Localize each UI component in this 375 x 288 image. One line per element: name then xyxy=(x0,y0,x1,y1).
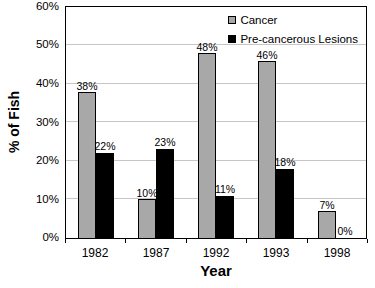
bar-value-label: 38% xyxy=(76,80,97,92)
y-tick-label-0: 0% xyxy=(0,231,59,244)
x-tick-label-1998: 1998 xyxy=(307,246,367,260)
x-tick-mark xyxy=(367,239,368,243)
bar-value-label: 18% xyxy=(274,156,295,168)
bar-cancer-1987: 10% xyxy=(138,199,156,238)
bar-value-label: 48% xyxy=(196,41,217,53)
bar-value-label: 10% xyxy=(136,187,157,199)
bar-value-label: 7% xyxy=(319,199,334,211)
y-tick-label-30: 30% xyxy=(0,116,59,129)
x-tick-mark xyxy=(125,239,126,243)
bar-pre-cancerous-lesions-1993: 18% xyxy=(276,169,294,238)
x-tick-label-1987: 1987 xyxy=(126,246,186,260)
bar-value-label: 23% xyxy=(154,136,175,148)
x-tick-mark xyxy=(246,239,247,243)
x-tick-mark xyxy=(65,239,66,243)
legend-label-cancer: Cancer xyxy=(240,14,277,26)
x-tick-label-1992: 1992 xyxy=(186,246,246,260)
y-tick-label-60: 60% xyxy=(0,0,59,13)
cancer-swatch-icon xyxy=(228,16,236,24)
x-tick-label-1982: 1982 xyxy=(65,246,125,260)
bar-group-1982: 38%22% xyxy=(66,7,126,238)
x-tick-mark xyxy=(186,239,187,243)
y-tick-label-10: 10% xyxy=(0,193,59,206)
bar-value-label: 11% xyxy=(215,183,235,195)
x-axis-title: Year xyxy=(65,262,367,279)
bar-pre-cancerous-lesions-1987: 23% xyxy=(156,149,174,238)
precancerous-lesions-swatch-icon xyxy=(228,35,236,43)
bar-cancer-1998: 7% xyxy=(318,211,336,238)
bar-value-label: 0% xyxy=(337,225,352,237)
y-tick-label-40: 40% xyxy=(0,77,59,90)
x-tick-mark xyxy=(307,239,308,243)
legend: Cancer Pre-cancerous Lesions xyxy=(228,14,358,45)
bar-cancer-1982: 38% xyxy=(78,92,96,238)
y-tick-label-50: 50% xyxy=(0,38,59,51)
bar-pre-cancerous-lesions-1982: 22% xyxy=(96,153,114,238)
bar-pre-cancerous-lesions-1992: 11% xyxy=(216,196,234,238)
bar-cancer-1992: 48% xyxy=(198,53,216,238)
legend-item-cancer: Cancer xyxy=(228,14,277,26)
plot-area: 38%22%10%23%48%11%46%18%7%0% Cancer Pre-… xyxy=(65,6,367,239)
bar-value-label: 46% xyxy=(256,49,277,61)
legend-item-precancerous-lesions: Pre-cancerous Lesions xyxy=(228,33,358,45)
bar-cancer-1993: 46% xyxy=(258,61,276,238)
x-tick-label-1993: 1993 xyxy=(246,246,306,260)
bar-group-1987: 10%23% xyxy=(126,7,186,238)
legend-label-precancerous-lesions: Pre-cancerous Lesions xyxy=(240,33,358,45)
y-tick-label-20: 20% xyxy=(0,154,59,167)
bar-value-label: 22% xyxy=(94,140,115,152)
bar-chart-figure: % of Fish 38%22%10%23%48%11%46%18%7%0% C… xyxy=(0,0,375,288)
